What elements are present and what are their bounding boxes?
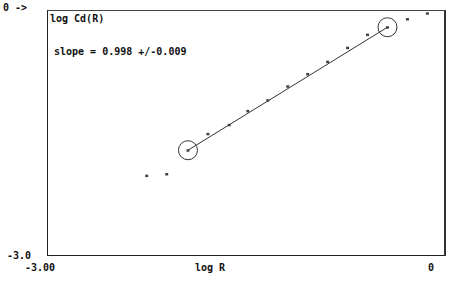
data-point	[246, 110, 249, 113]
data-point	[228, 124, 231, 127]
data-point	[326, 61, 329, 64]
data-point	[165, 173, 168, 176]
data-point	[366, 34, 369, 37]
data-point	[206, 133, 209, 136]
data-point	[406, 18, 409, 21]
data-point	[266, 99, 269, 102]
fit-line	[188, 27, 388, 150]
data-point	[426, 12, 429, 15]
scatter-plot	[0, 0, 459, 285]
data-point	[386, 26, 389, 29]
data-point	[145, 175, 148, 178]
data-point	[286, 85, 289, 88]
data-point	[186, 149, 189, 152]
data-point	[346, 47, 349, 50]
data-point	[306, 73, 309, 76]
